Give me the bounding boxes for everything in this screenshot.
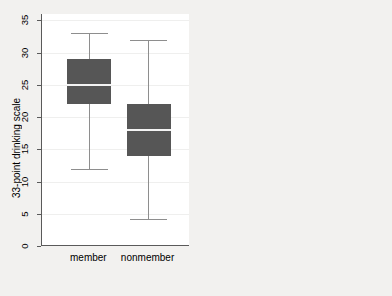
- y-tick-label-20: 20: [20, 112, 36, 123]
- y-tick-label-5: 5: [20, 211, 36, 216]
- y-tick-label-30: 30: [20, 47, 36, 58]
- median-line-member: [67, 84, 111, 86]
- y-tick-labels-left: 05101520253035: [20, 0, 36, 296]
- gridline-25: [42, 85, 189, 86]
- plot-area-left: [41, 14, 189, 246]
- box-member: [67, 59, 111, 104]
- category-label-member-left: member: [70, 252, 107, 263]
- whisker-cap-low-nonmember: [130, 219, 167, 220]
- whisker-cap-high-nonmember: [130, 40, 167, 41]
- y-tick-label-25: 25: [20, 80, 36, 91]
- gridline-10: [42, 182, 189, 183]
- boxplot-panel: 33-point drinking scale 05101520253035 m…: [0, 0, 196, 296]
- whisker-cap-high-member: [71, 33, 108, 34]
- category-label-nonmember-left: nonmember: [121, 252, 174, 263]
- gridline-35: [42, 20, 189, 21]
- y-tick-label-15: 15: [20, 144, 36, 155]
- median-line-nonmember: [127, 129, 171, 131]
- gridline-30: [42, 53, 189, 54]
- gridline-5: [42, 214, 189, 215]
- whisker-cap-low-member: [71, 169, 108, 170]
- barchart-panel: mean of drink 05101520253035 member nonm…: [196, 0, 392, 296]
- y-tick-label-0: 0: [20, 243, 36, 248]
- y-tick-label-35: 35: [20, 15, 36, 26]
- y-tick-label-10: 10: [20, 176, 36, 187]
- y-tick-mark-0: [37, 246, 41, 247]
- two-panel-figure: 33-point drinking scale 05101520253035 m…: [0, 0, 392, 296]
